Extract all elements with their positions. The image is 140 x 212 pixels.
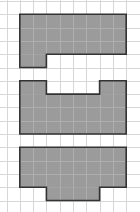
shape-3 — [20, 147, 126, 200]
shape-cell-block — [20, 94, 126, 134]
shape-cell-block — [20, 14, 126, 54]
shape-cell-block — [100, 81, 127, 94]
shape-cell-block — [20, 147, 126, 187]
shapes-layer — [20, 14, 126, 200]
grid-diagram — [0, 0, 140, 212]
shape-cell-block — [46, 187, 99, 200]
